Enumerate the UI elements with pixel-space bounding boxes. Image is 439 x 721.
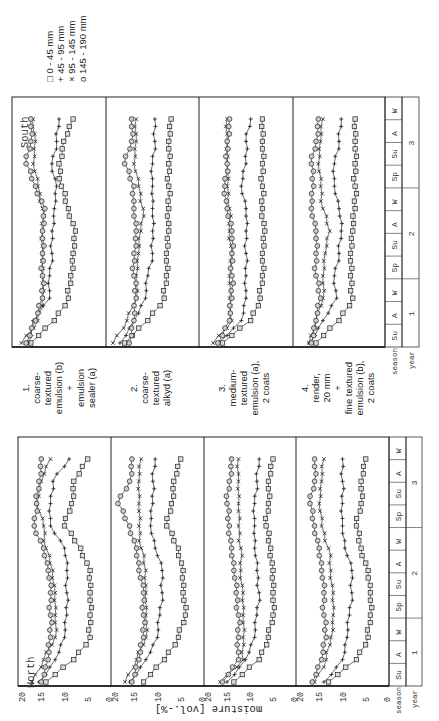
svg-text:2: 2 — [410, 571, 419, 576]
svg-text:20: 20 — [18, 692, 28, 702]
svg-text:Sp: Sp — [394, 602, 403, 612]
svg-text:year: year — [411, 690, 419, 708]
plot-panel-1 — [30, 457, 94, 685]
plot-panel-4 — [308, 457, 374, 685]
svg-text:season: season — [395, 687, 403, 714]
svg-text:10: 10 — [339, 692, 349, 702]
svg-text:W: W — [394, 448, 403, 453]
svg-text:Sp: Sp — [394, 511, 403, 521]
svg-text:15: 15 — [223, 692, 233, 702]
north-plots: NorthSuAWSpSuAWSpSuAW123seasonyear201510… — [18, 437, 422, 714]
svg-text:20: 20 — [296, 692, 306, 702]
svg-text:3: 3 — [410, 480, 419, 485]
svg-text:A: A — [394, 471, 403, 476]
svg-text:10: 10 — [61, 692, 71, 702]
svg-text:Su: Su — [394, 579, 403, 589]
svg-text:10: 10 — [154, 692, 164, 702]
plot-panel-3 — [218, 457, 276, 685]
north-chart: NorthSuAWSpSuAWSpSuAW123seasonyear201510… — [0, 0, 439, 721]
svg-text:15: 15 — [130, 692, 140, 702]
svg-text:A: A — [394, 652, 403, 657]
plot-panel-2 — [116, 457, 189, 685]
svg-text:1: 1 — [410, 650, 419, 655]
svg-text:W: W — [394, 629, 403, 634]
svg-text:15: 15 — [315, 692, 325, 702]
svg-text:Su: Su — [394, 670, 403, 680]
ylabel: moisture [vol.-%] — [155, 703, 262, 715]
svg-text:20: 20 — [111, 692, 121, 702]
svg-text:10: 10 — [246, 692, 256, 702]
svg-text:Su: Su — [394, 489, 403, 499]
svg-text:0: 0 — [383, 697, 393, 702]
svg-text:W: W — [394, 539, 403, 544]
svg-text:5: 5 — [269, 697, 279, 702]
svg-text:20: 20 — [204, 692, 214, 702]
svg-text:5: 5 — [362, 697, 372, 702]
svg-text:5: 5 — [84, 697, 94, 702]
svg-text:15: 15 — [37, 692, 47, 702]
svg-text:A: A — [394, 562, 403, 567]
svg-text:5: 5 — [177, 697, 187, 702]
